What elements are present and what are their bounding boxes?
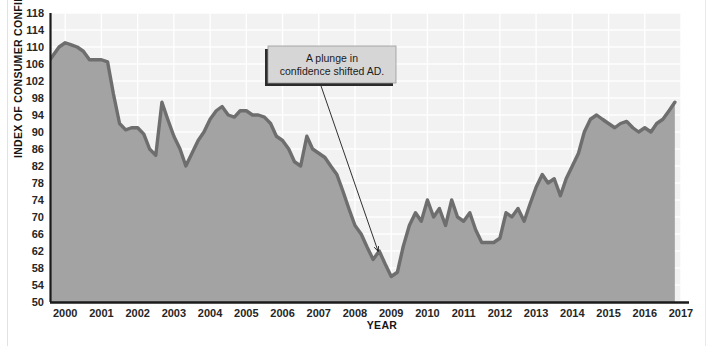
x-tick-2008: 2008: [343, 307, 367, 319]
y-tick-50: 50: [32, 296, 44, 308]
x-tick-2015: 2015: [596, 307, 620, 319]
y-tick-78: 78: [32, 177, 44, 189]
x-tick-2013: 2013: [524, 307, 548, 319]
x-tick-2007: 2007: [307, 307, 331, 319]
y-tick-98: 98: [32, 92, 44, 104]
y-tick-66: 66: [32, 228, 44, 240]
x-tick-2016: 2016: [633, 307, 657, 319]
x-tick-2012: 2012: [488, 307, 512, 319]
chart-figure: 5054586266707478828690949810210611011411…: [0, 0, 710, 346]
y-axis-title: INDEX OF CONSUMER CONFIDENCE: [12, 0, 24, 158]
x-tick-2003: 2003: [162, 307, 186, 319]
y-tick-62: 62: [32, 245, 44, 257]
y-tick-114: 114: [26, 24, 45, 36]
x-tick-2014: 2014: [560, 307, 585, 319]
x-tick-2005: 2005: [234, 307, 258, 319]
x-tick-2000: 2000: [53, 307, 77, 319]
y-tick-118: 118: [26, 7, 44, 19]
y-tick-86: 86: [32, 143, 44, 155]
callout-text-line-1: A plunge in: [306, 52, 358, 64]
x-tick-2002: 2002: [125, 307, 149, 319]
y-tick-110: 110: [26, 41, 44, 53]
x-tick-2001: 2001: [89, 307, 113, 319]
consumer-confidence-area-chart: 5054586266707478828690949810210611011411…: [0, 0, 710, 346]
x-tick-2010: 2010: [415, 307, 439, 319]
callout-text-line-2: confidence shifted AD.: [280, 65, 384, 77]
y-tick-90: 90: [32, 126, 44, 138]
y-tick-82: 82: [32, 160, 44, 172]
y-tick-102: 102: [26, 75, 44, 87]
x-tick-2006: 2006: [270, 307, 294, 319]
y-tick-106: 106: [26, 58, 44, 70]
x-axis-tick-labels: 2000200120022003200420052006200720082009…: [53, 307, 693, 319]
x-tick-2017: 2017: [669, 307, 693, 319]
x-tick-2011: 2011: [452, 307, 476, 319]
y-tick-58: 58: [32, 262, 44, 274]
y-tick-94: 94: [32, 109, 45, 121]
y-tick-74: 74: [32, 194, 45, 206]
x-tick-2004: 2004: [198, 307, 223, 319]
y-axis-tick-labels: 5054586266707478828690949810210611011411…: [26, 7, 45, 308]
y-tick-54: 54: [32, 279, 45, 291]
x-axis-title: YEAR: [367, 319, 397, 331]
y-tick-70: 70: [32, 211, 44, 223]
x-tick-2009: 2009: [379, 307, 403, 319]
